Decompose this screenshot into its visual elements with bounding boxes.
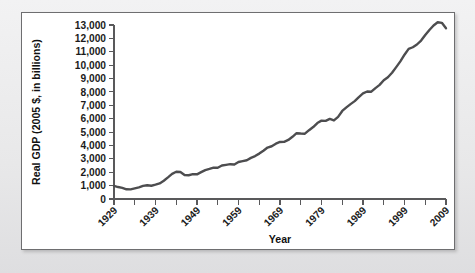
- y-tick-label: 6,000: [81, 113, 107, 124]
- y-tick-label: 0: [100, 194, 106, 205]
- y-tick-label: 9,000: [81, 73, 107, 84]
- y-tick-label: 1,000: [81, 180, 107, 191]
- y-axis-title: Real GDP (2005 $, in billions): [30, 39, 42, 185]
- y-tick-label: 2,000: [81, 167, 107, 178]
- x-tick-label: 1939: [137, 204, 161, 228]
- axis-tick-marks: [109, 25, 446, 205]
- x-axis-tick-labels: 192919391949195919691979198919992009: [96, 204, 452, 228]
- x-tick-label: 1989: [345, 204, 369, 228]
- real-gdp-series-line: [114, 22, 446, 189]
- y-axis-tick-labels: 13,00012,00011,00010,0009,0008,0007,0006…: [75, 20, 107, 205]
- x-tick-label: 1959: [220, 204, 244, 228]
- y-tick-label: 10,000: [75, 60, 106, 71]
- y-tick-label: 12,000: [75, 33, 106, 44]
- x-tick-label: 1949: [179, 204, 203, 228]
- y-tick-label: 3,000: [81, 153, 107, 164]
- x-tick-label: 2009: [428, 204, 452, 228]
- y-tick-label: 8,000: [81, 87, 107, 98]
- x-tick-label: 1929: [96, 204, 120, 228]
- y-tick-label: 5,000: [81, 127, 107, 138]
- x-tick-label: 1979: [303, 204, 327, 228]
- y-tick-label: 7,000: [81, 100, 107, 111]
- x-tick-label: 1969: [262, 204, 286, 228]
- figure-page: 13,00012,00011,00010,0009,0008,0007,0006…: [0, 0, 475, 273]
- x-tick-label: 1999: [386, 204, 410, 228]
- gdp-line-chart: 13,00012,00011,00010,0009,0008,0007,0006…: [22, 13, 456, 251]
- chart-panel: 13,00012,00011,00010,0009,0008,0007,0006…: [21, 12, 455, 250]
- x-axis-title: Year: [269, 233, 291, 245]
- y-tick-label: 4,000: [81, 140, 107, 151]
- y-tick-label: 11,000: [75, 46, 106, 57]
- y-tick-label: 13,000: [75, 20, 106, 31]
